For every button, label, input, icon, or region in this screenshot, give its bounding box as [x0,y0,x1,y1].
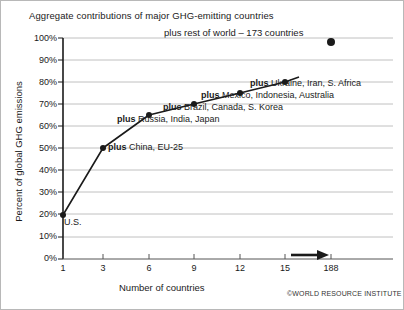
annotation-mexico-indonesia-australia-prefix: plus [201,90,220,100]
data-point-3 [100,145,106,151]
annotation-russia-india-japan: plus Russia, India, Japan [117,114,220,124]
plot-area [1,1,404,310]
annotation-brazil-canada-skorea-prefix: plus [163,102,182,112]
data-points [60,38,335,218]
annotation-ukraine-iran-safrica-prefix: plus [250,78,269,88]
annotation-brazil-canada-skorea-text: Brazil, Canada, S. Korea [182,102,284,112]
annotation-china-eu25-prefix: plus [108,142,127,152]
annotation-china-eu25-text: China, EU-25 [127,142,184,152]
annotation-brazil-canada-skorea: plus Brazil, Canada, S. Korea [163,102,283,112]
annotation-us: U.S. [64,217,82,227]
annotation-ukraine-iran-safrica-text: Ukraine, Iran, S. Africa [269,78,362,88]
annotation-russia-india-japan-text: Russia, India, Japan [136,114,220,124]
data-point-188 [327,38,335,46]
gridlines [63,38,393,237]
chart-figure: Aggregate contributions of major GHG-emi… [0,0,404,310]
annotation-ukraine-iran-safrica: plus Ukraine, Iran, S. Africa [250,78,361,88]
annotation-russia-india-japan-prefix: plus [117,114,136,124]
annotation-china-eu25: plus China, EU-25 [108,142,183,152]
x-tick-marks [63,254,331,259]
annotation-us-text: U.S. [64,217,82,227]
annotation-mexico-indonesia-australia: plus Mexico, Indonesia, Australia [201,90,334,100]
annotation-mexico-indonesia-australia-text: Mexico, Indonesia, Australia [220,90,335,100]
